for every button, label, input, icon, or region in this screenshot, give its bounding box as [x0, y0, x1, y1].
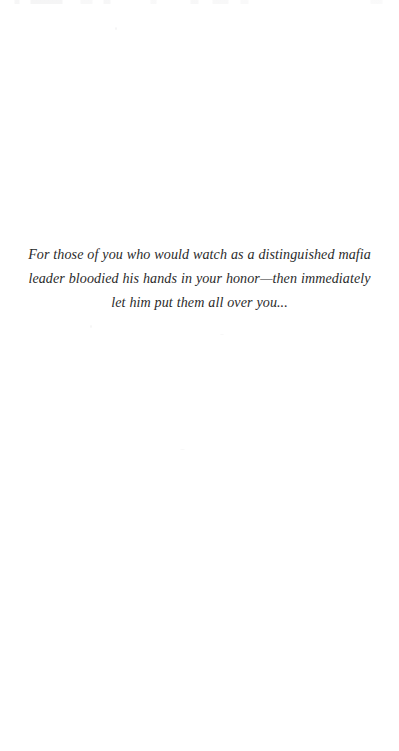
dedication-line-2: leader bloodied his hands in your honor—… — [14, 266, 385, 290]
dedication-line-1: For those of you who would watch as a di… — [14, 242, 385, 266]
scan-speck — [180, 449, 185, 450]
scan-artifact-top-edge — [0, 0, 399, 4]
dedication-text: For those of you who would watch as a di… — [0, 242, 399, 314]
scan-speck — [115, 27, 117, 30]
scan-speck — [220, 334, 224, 335]
book-page: For those of you who would watch as a di… — [0, 0, 399, 751]
dedication-line-3: let him put them all over you... — [14, 290, 385, 314]
scan-speck — [90, 325, 92, 328]
